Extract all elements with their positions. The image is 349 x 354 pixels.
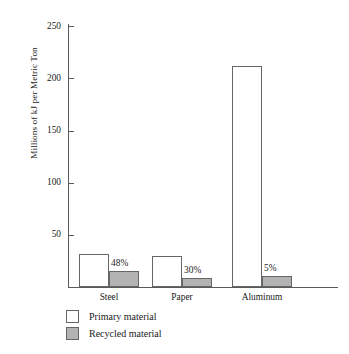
x-axis-category-label: Paper [152, 291, 212, 303]
y-axis-tick-label: 100 [27, 176, 61, 189]
y-axis-tick-label: 150 [27, 124, 61, 137]
bar-group: 48%Steel [79, 17, 139, 287]
y-axis-tick: 250 [69, 26, 74, 27]
bar-primary-material [232, 66, 262, 287]
x-axis-line [68, 287, 338, 288]
x-axis-category-label: Steel [79, 291, 139, 303]
y-axis-tick: 200 [69, 78, 74, 79]
chart-legend: Primary materialRecycled material [66, 308, 266, 342]
plot-area: 50100150200250 48%Steel30%Paper5%Aluminu… [68, 18, 338, 288]
bar-chart: Millions of kJ per Metric Ton 5010015020… [0, 0, 349, 354]
y-axis-tick: 100 [69, 183, 74, 184]
bar-primary-material [152, 256, 182, 287]
legend-item-label: Primary material [89, 310, 156, 323]
bar-group: 30%Paper [152, 17, 212, 287]
bar-percent-label: 48% [111, 258, 128, 269]
bar-percent-label: 30% [184, 265, 201, 276]
x-axis-category-label: Aluminum [232, 291, 292, 303]
bar-group: 5%Aluminum [232, 17, 292, 287]
y-axis-tick-label: 50 [27, 228, 61, 241]
bar-recycled-material: 30% [182, 278, 212, 287]
bar-recycled-material: 5% [262, 276, 292, 287]
y-axis-tick-label: 250 [27, 20, 61, 33]
legend-item: Primary material [66, 308, 266, 325]
y-axis-tick: 150 [69, 131, 74, 132]
y-axis-tick-label: 200 [27, 72, 61, 85]
bar-percent-label: 5% [264, 263, 277, 274]
legend-item: Recycled material [66, 325, 266, 342]
legend-swatch-recycled [66, 327, 79, 340]
y-axis-tick: 50 [69, 235, 74, 236]
legend-item-label: Recycled material [89, 327, 161, 340]
bar-recycled-material: 48% [109, 271, 139, 287]
legend-swatch-primary [66, 310, 79, 323]
bar-primary-material [79, 254, 109, 287]
y-axis-line [68, 24, 69, 288]
